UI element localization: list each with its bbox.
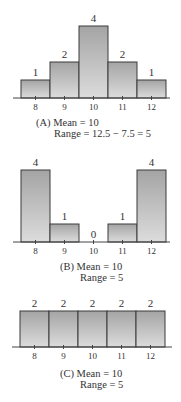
panel-b-data-label-12: 4 xyxy=(149,156,155,168)
panel-b-tick-label-11: 11 xyxy=(118,246,127,256)
panel-c-bar-11 xyxy=(107,311,136,347)
panel-c-tick-label-8: 8 xyxy=(32,351,37,361)
panel-a-data-label-11: 2 xyxy=(120,48,126,60)
panel-a-tick-label-11: 11 xyxy=(118,102,127,112)
panel-b-bar-11 xyxy=(108,224,137,242)
panel-a-tick-label-10: 10 xyxy=(89,102,99,112)
panel-b-data-label-11: 1 xyxy=(120,210,126,222)
panel-a-bar-10 xyxy=(79,26,108,98)
panel-c-tick-label-11: 11 xyxy=(117,351,126,361)
panel-a-data-label-10: 4 xyxy=(91,12,97,24)
panel-c-data-label-11: 2 xyxy=(119,297,125,309)
panel-a-data-label-12: 1 xyxy=(149,66,155,78)
panel-a-data-label-9: 2 xyxy=(62,48,68,60)
panel-c-caption-range: Range = 5 xyxy=(80,379,123,390)
panel-c-data-label-12: 2 xyxy=(148,297,154,309)
panel-a-bar-12 xyxy=(137,80,166,98)
panel-b-data-label-10: 0 xyxy=(91,228,97,240)
panel-a-caption-range: Range = 12.5 − 7.5 = 5 xyxy=(54,128,151,139)
panel-c-bar-8 xyxy=(20,311,49,347)
panel-a-tick-label-9: 9 xyxy=(62,102,67,112)
panel-b-bar-8 xyxy=(21,170,50,242)
histogram-figure: (A) Mean = 10 Range = 12.5 − 7.5 = 5 124… xyxy=(0,0,181,402)
panel-b-data-label-8: 4 xyxy=(33,156,39,168)
panel-c-tick-label-12: 12 xyxy=(146,351,155,361)
panel-c-bar-12 xyxy=(136,311,165,347)
panel-c-data-label-9: 2 xyxy=(61,297,67,309)
panel-b-bar-12 xyxy=(137,170,166,242)
panel-b-tick-label-8: 8 xyxy=(33,246,38,256)
panel-b-data-label-9: 1 xyxy=(62,210,68,222)
panel-b: (B) Mean = 10 Range = 5 4101489101112 xyxy=(13,156,170,283)
panel-a-data-label-8: 1 xyxy=(33,66,39,78)
panel-c-tick-label-10: 10 xyxy=(88,351,98,361)
panel-c: (C) Mean = 10 Range = 5 2222289101112 xyxy=(12,297,172,390)
panel-c-data-label-10: 2 xyxy=(90,297,96,309)
panel-a-bar-8 xyxy=(21,80,50,98)
panel-a-tick-label-8: 8 xyxy=(33,102,38,112)
panel-a-tick-label-12: 12 xyxy=(147,102,156,112)
panel-a-bar-9 xyxy=(50,62,79,98)
panel-b-caption-range: Range = 5 xyxy=(80,272,123,283)
panel-c-bar-9 xyxy=(49,311,78,347)
panel-a-bar-11 xyxy=(108,62,137,98)
panel-c-data-label-8: 2 xyxy=(32,297,38,309)
panel-b-tick-label-10: 10 xyxy=(89,246,99,256)
panel-b-tick-label-12: 12 xyxy=(147,246,156,256)
panel-b-tick-label-9: 9 xyxy=(62,246,67,256)
panel-a: (A) Mean = 10 Range = 12.5 − 7.5 = 5 124… xyxy=(13,12,170,139)
panel-c-tick-label-9: 9 xyxy=(61,351,66,361)
panel-c-bar-10 xyxy=(78,311,107,347)
panel-b-bar-9 xyxy=(50,224,79,242)
